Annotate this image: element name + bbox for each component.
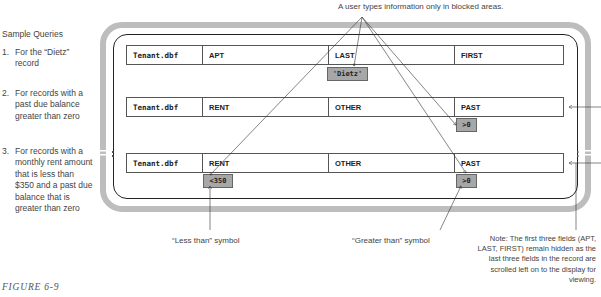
- query-text: For records with a monthly rent amount t…: [15, 146, 95, 214]
- query-row-3: Tenant.dbf RENT OTHER PAST: [126, 153, 564, 173]
- field-cell-other[interactable]: OTHER: [329, 154, 455, 172]
- field-cell-first[interactable]: FIRST: [455, 46, 563, 64]
- top-caption: A user types information only in blocked…: [338, 2, 503, 11]
- query-row-2: Tenant.dbf RENT OTHER PAST: [126, 97, 564, 117]
- query-number: 2.: [2, 88, 9, 99]
- field-cell-past[interactable]: PAST: [455, 98, 563, 116]
- field-cell-other[interactable]: OTHER: [329, 98, 455, 116]
- less-than-label: “Less than” symbol: [172, 236, 240, 245]
- criteria-past-row3[interactable]: >0: [456, 174, 477, 188]
- table-name-cell: Tenant.dbf: [127, 154, 203, 172]
- criteria-past-row2[interactable]: >0: [456, 118, 477, 132]
- field-cell-past[interactable]: PAST: [455, 154, 563, 172]
- table-name-cell: Tenant.dbf: [127, 46, 203, 64]
- query-text: For the “Dietz” record: [15, 47, 95, 70]
- greater-than-label: “Greater than” symbol: [352, 236, 430, 245]
- table-name-cell: Tenant.dbf: [127, 98, 203, 116]
- figure-label: FIGURE 6-9: [2, 282, 59, 292]
- scroll-note: Note: The first three fields (APT, LAST,…: [474, 234, 596, 285]
- query-number: 3.: [2, 146, 9, 157]
- query-text: For records with a past due balance grea…: [15, 88, 95, 122]
- field-cell-rent[interactable]: RENT: [203, 154, 329, 172]
- criteria-rent-row3[interactable]: <350: [203, 174, 233, 188]
- field-cell-last[interactable]: LAST: [329, 46, 455, 64]
- query-row-1: Tenant.dbf APT LAST FIRST: [126, 45, 564, 65]
- criteria-dietz[interactable]: 'Dietz': [327, 67, 368, 81]
- field-cell-rent[interactable]: RENT: [203, 98, 329, 116]
- sample-queries-title: Sample Queries: [2, 29, 63, 39]
- field-cell-apt[interactable]: APT: [203, 46, 329, 64]
- query-number: 1.: [2, 47, 9, 58]
